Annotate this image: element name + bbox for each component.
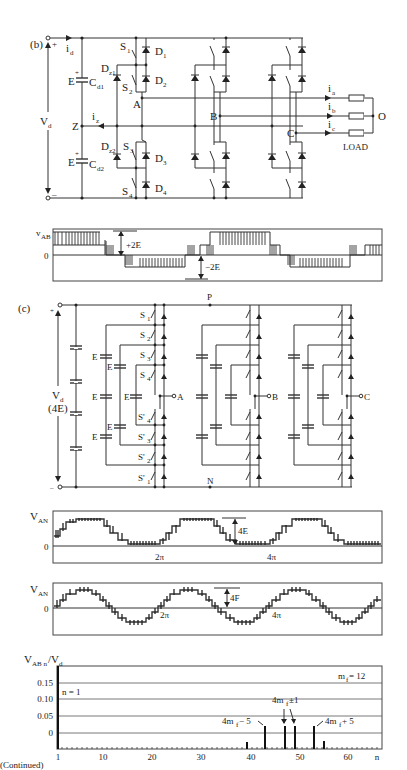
svg-text:E: E (92, 392, 98, 402)
svg-text:D: D (101, 62, 109, 74)
svg-text:S': S' (138, 452, 145, 462)
svg-text:AN: AN (38, 517, 48, 525)
svg-text:1: 1 (147, 478, 151, 486)
arrow-up-icon (45, 42, 51, 48)
svg-text:1: 1 (56, 752, 61, 762)
tick-4pi: 4π (267, 552, 277, 562)
spectrum-ylabel: V (24, 653, 32, 665)
svg-text:D: D (155, 182, 163, 194)
svg-text:d1: d1 (97, 83, 105, 91)
minus-sign: – (51, 189, 57, 199)
svg-text:b: b (332, 107, 336, 115)
harmonic-spectrum-chart: V AB n /V d 0 0.05 0.10 0.15 1 10 20 30 … (24, 653, 382, 762)
figure-caption-continued: (Continued) (0, 760, 44, 770)
svg-text:− 5: − 5 (239, 716, 251, 726)
svg-text:30: 30 (197, 752, 207, 762)
svg-text:z2: z2 (109, 147, 116, 155)
node-c-c: C (364, 392, 370, 402)
svg-text:0: 0 (44, 251, 49, 261)
node-b-c: B (272, 392, 278, 402)
svg-text:V: V (30, 510, 38, 522)
tick-2pi-2: 2π (160, 610, 170, 620)
svg-text:S: S (122, 185, 128, 197)
mf-legend: m (338, 671, 345, 681)
vd-label: V d (38, 112, 54, 130)
svg-text:4m: 4m (222, 716, 234, 726)
svg-text:2: 2 (129, 88, 133, 96)
svg-text:S: S (140, 370, 145, 380)
svg-text:c: c (332, 125, 335, 133)
svg-text:3: 3 (147, 437, 151, 445)
svg-text:(4E): (4E) (48, 402, 68, 415)
svg-text:1: 1 (163, 52, 167, 60)
svg-text:10: 10 (99, 752, 109, 762)
figure-canvas: (b) + – V d i d E + C d1 E + (0, 0, 407, 770)
svg-text:S': S' (138, 412, 145, 422)
svg-text:/V: /V (48, 653, 59, 665)
svg-text:d: d (70, 49, 74, 57)
svg-text:0: 0 (49, 728, 54, 738)
svg-text:a: a (332, 89, 336, 97)
rail-p: P (207, 292, 212, 302)
svg-text:AN: AN (38, 590, 48, 598)
svg-text:V: V (40, 115, 48, 127)
svg-text:z1: z1 (109, 69, 116, 77)
plus-sign: + (52, 39, 57, 49)
van-waveform-plot-2: V AN 0 4F 2π 4π (30, 583, 382, 635)
svg-text:S: S (140, 350, 145, 360)
tick-2pi: 2π (155, 552, 165, 562)
svg-text:S: S (123, 140, 129, 152)
svg-text:4F: 4F (230, 593, 240, 603)
neutral-point-z: Z (72, 120, 79, 132)
current-arrow-icon (66, 35, 72, 41)
node-b: B (210, 110, 217, 122)
level-neg-2e: −2E (205, 262, 221, 272)
svg-text:3: 3 (147, 355, 151, 363)
svg-text:E: E (107, 362, 113, 372)
svg-text:40: 40 (247, 752, 257, 762)
svg-text:0: 0 (44, 542, 49, 552)
svg-text:2: 2 (147, 457, 151, 465)
svg-text:E: E (68, 75, 75, 87)
dc-minus-terminal (46, 196, 50, 200)
spectrum-bars (58, 666, 324, 749)
svg-text:–: – (49, 484, 54, 492)
svg-text:V: V (30, 583, 38, 595)
svg-text:4: 4 (129, 192, 133, 200)
svg-text:z: z (96, 117, 99, 125)
svg-text:S': S' (138, 432, 145, 442)
svg-text:S: S (122, 81, 128, 93)
svg-text:AB: AB (41, 233, 51, 241)
svg-text:±1: ±1 (289, 695, 298, 705)
load-label: LOAD (343, 142, 368, 152)
svg-text:E: E (92, 432, 98, 442)
svg-text:60: 60 (344, 752, 354, 762)
id-label: i (66, 42, 69, 54)
svg-text:4m: 4m (325, 716, 337, 726)
svg-text:n: n (375, 752, 380, 762)
svg-text:4: 4 (147, 417, 151, 425)
svg-text:i: i (328, 82, 331, 94)
svg-text:+: + (75, 69, 79, 77)
svg-text:V: V (52, 389, 60, 401)
tick-4pi-2: 4π (272, 610, 282, 620)
svg-text:D: D (155, 74, 163, 86)
svg-text:4: 4 (163, 189, 167, 197)
svg-text:0: 0 (44, 604, 49, 614)
svg-text:D: D (101, 140, 109, 152)
rail-n: N (207, 476, 214, 486)
svg-text:E: E (124, 392, 130, 402)
svg-text:E: E (92, 352, 98, 362)
svg-text:3: 3 (163, 159, 167, 167)
fundamental-label: n = 1 (62, 687, 81, 697)
svg-text:2: 2 (147, 335, 151, 343)
svg-text:AB n: AB n (32, 660, 47, 668)
svg-text:0.05: 0.05 (37, 711, 53, 721)
svg-text:i: i (92, 110, 95, 122)
vab-waveform-plot: v AB 0 +2E −2E (36, 228, 382, 281)
svg-text:4m: 4m (272, 695, 284, 705)
leg-b-c (196, 304, 271, 489)
svg-text:1: 1 (127, 47, 131, 55)
van-waveform-plot-1: V AN 0 4E 2π 4π (30, 510, 382, 563)
svg-text:50: 50 (296, 752, 306, 762)
